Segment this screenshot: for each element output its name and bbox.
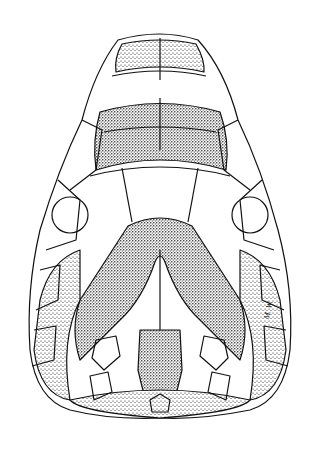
- head-scale-drawing: [0, 0, 318, 457]
- illustration: M. W.: [0, 0, 318, 457]
